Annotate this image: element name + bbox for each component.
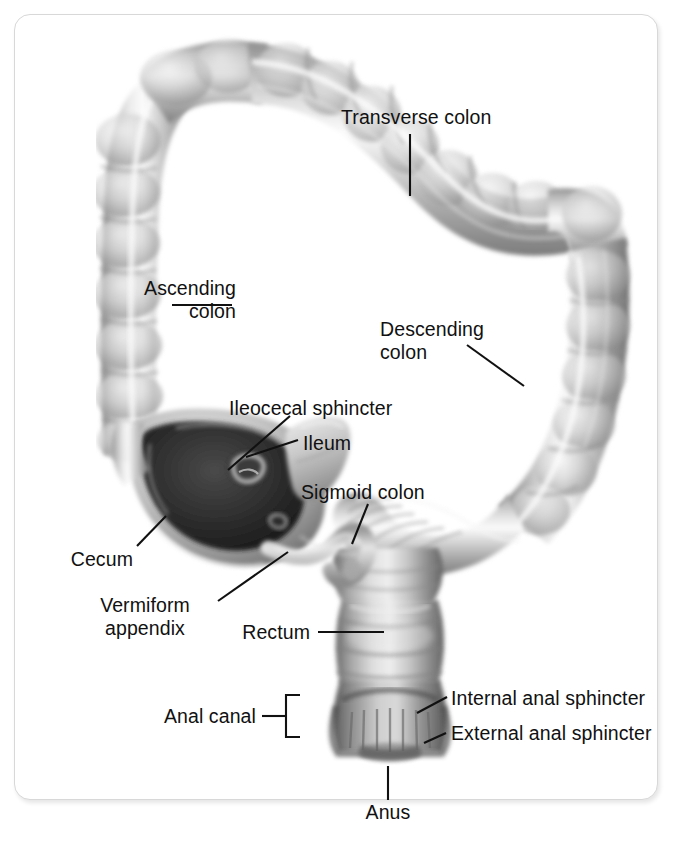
bracket-anal-canal [286,695,300,737]
label-external-anal-sphincter: External anal sphincter [451,722,652,745]
label-descending-colon: Descending colon [380,318,530,364]
label-anus: Anus [338,801,438,824]
label-ileocecal-sphincter: Ileocecal sphincter [229,397,392,420]
label-anal-canal: Anal canal [140,705,256,728]
rectum-graphic [336,600,444,684]
label-internal-anal-sphincter: Internal anal sphincter [451,687,645,710]
label-cecum: Cecum [27,548,133,571]
figure-page: Transverse colon Ascending colon Descend… [0,0,688,846]
label-rectum: Rectum [196,621,310,644]
ascending-colon-graphic [92,78,196,462]
label-sigmoid-colon: Sigmoid colon [301,481,425,504]
label-vermiform-appendix: Vermiform appendix [75,594,215,640]
label-ileum: Ileum [303,432,351,455]
anal-canal-graphic [332,680,449,761]
descending-colon-graphic [498,238,630,544]
label-transverse-colon: Transverse colon [341,106,491,129]
label-ascending-colon: Ascending colon [116,277,236,323]
